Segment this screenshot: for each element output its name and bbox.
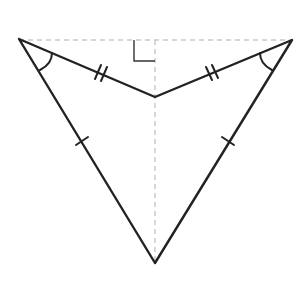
geometry-diagram [0,0,307,302]
angle-arc-right [260,53,272,70]
right-angle-marker [134,40,155,61]
angle-arc-left [40,53,52,70]
